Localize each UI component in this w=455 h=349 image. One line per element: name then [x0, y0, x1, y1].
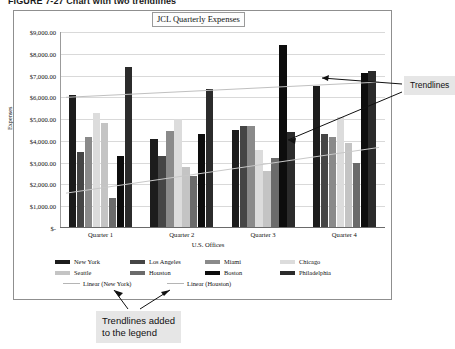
bar[interactable]	[109, 198, 116, 228]
legend-swatch-icon	[130, 260, 145, 264]
bar[interactable]	[190, 176, 197, 228]
plot-inner	[60, 32, 385, 228]
bar[interactable]	[279, 45, 286, 228]
y-tick-label: $7,000.00	[30, 72, 56, 79]
legend-item[interactable]: Houston	[130, 269, 205, 276]
legend-label: Houston	[149, 269, 171, 276]
y-tick-label: $1,000.00	[30, 203, 56, 210]
legend-item[interactable]: Linear (Houston)	[167, 280, 271, 287]
legend-line-icon	[167, 283, 184, 284]
callout-trendlines-legend: Trendlines added to the legend	[96, 311, 181, 343]
legend-swatch-icon	[205, 260, 220, 264]
plot-area	[60, 32, 385, 228]
bar[interactable]	[313, 86, 320, 228]
bar[interactable]	[206, 89, 213, 228]
bar-group	[313, 32, 376, 228]
legend-item[interactable]: Los Angeles	[130, 258, 205, 265]
legend-label: Los Angeles	[149, 258, 181, 265]
bar[interactable]	[345, 143, 352, 228]
legend-label: New York	[74, 258, 100, 265]
y-tick-label: $8,000.00	[30, 50, 56, 57]
x-tick-label: Quarter 4	[332, 231, 357, 238]
legend-label: Boston	[224, 269, 242, 276]
x-axis-line	[60, 227, 385, 228]
y-tick-label: $3,000.00	[30, 159, 56, 166]
bar[interactable]	[85, 137, 92, 228]
y-axis-tick-labels: $9,000.00$8,000.00$7,000.00$6,000.00$5,0…	[0, 32, 56, 228]
legend-label: Seattle	[74, 269, 91, 276]
legend-swatch-icon	[280, 271, 295, 275]
bar[interactable]	[337, 117, 344, 228]
bar-group	[232, 32, 295, 228]
legend-item[interactable]: New York	[55, 258, 130, 265]
legend-line-icon	[63, 283, 80, 284]
bar[interactable]	[93, 113, 100, 228]
bar[interactable]	[271, 158, 278, 228]
legend-label: Chicago	[299, 258, 320, 265]
y-tick-label: $2,000.00	[30, 181, 56, 188]
y-tick-label: $6,000.00	[30, 94, 56, 101]
legend-swatch-icon	[55, 260, 70, 264]
bar[interactable]	[263, 171, 270, 228]
x-axis-title: U.S. Offices	[192, 241, 225, 248]
legend-item[interactable]: Miami	[205, 258, 280, 265]
bar[interactable]	[321, 134, 328, 228]
bar[interactable]	[158, 156, 165, 228]
legend-item[interactable]: Linear (New York)	[63, 280, 167, 287]
bar[interactable]	[198, 134, 205, 228]
bar[interactable]	[117, 156, 124, 228]
y-tick-label: $9,000.00	[30, 29, 56, 36]
bar[interactable]	[101, 123, 108, 228]
bar[interactable]	[150, 139, 157, 228]
legend-swatch-icon	[130, 271, 145, 275]
y-axis-line	[60, 32, 61, 228]
legend-item[interactable]: Philadelphia	[280, 269, 355, 276]
callout-line-2: to the legend	[102, 327, 175, 339]
figure-caption: FIGURE 7-27 Chart with two trendlines	[8, 0, 176, 6]
x-tick-label: Quarter 1	[88, 231, 113, 238]
bar[interactable]	[329, 137, 336, 228]
bar[interactable]	[353, 163, 360, 228]
bar[interactable]	[174, 119, 181, 228]
bar[interactable]	[77, 152, 84, 228]
bar[interactable]	[255, 150, 262, 228]
legend-label: Miami	[224, 258, 241, 265]
legend-item[interactable]: Chicago	[280, 258, 355, 265]
y-tick-label: $5,000.00	[30, 116, 56, 123]
legend-swatch-icon	[55, 271, 70, 275]
bar-group	[69, 32, 132, 228]
bar[interactable]	[232, 130, 239, 228]
bar[interactable]	[125, 67, 132, 228]
bar[interactable]	[247, 126, 254, 228]
x-tick-label: Quarter 2	[169, 231, 194, 238]
callout-line-1: Trendlines added	[102, 315, 175, 327]
bar[interactable]	[166, 131, 173, 228]
bar[interactable]	[287, 132, 294, 228]
chart-legend: New YorkLos AngelesMiamiChicagoSeattleHo…	[55, 256, 355, 289]
bar-group	[150, 32, 213, 228]
x-tick-label: Quarter 3	[251, 231, 276, 238]
legend-item[interactable]: Seattle	[55, 269, 130, 276]
bar[interactable]	[69, 95, 76, 228]
legend-swatch-icon	[205, 271, 220, 275]
legend-row: New YorkLos AngelesMiamiChicago	[55, 256, 355, 267]
bar[interactable]	[368, 71, 375, 228]
legend-swatch-icon	[280, 260, 295, 264]
legend-label: Philadelphia	[299, 269, 331, 276]
legend-row: SeattleHoustonBostonPhiladelphia	[55, 267, 355, 278]
bar[interactable]	[240, 126, 247, 228]
y-tick-label: $4,000.00	[30, 137, 56, 144]
y-tick-label: $-	[51, 225, 57, 232]
bar[interactable]	[182, 167, 189, 228]
callout-trendlines: Trendlines	[404, 76, 455, 95]
chart-title: JCL Quarterly Expenses	[152, 12, 245, 27]
legend-item[interactable]: Boston	[205, 269, 280, 276]
bar[interactable]	[361, 73, 368, 228]
legend-row: Linear (New York)Linear (Houston)	[55, 278, 355, 289]
legend-label: Linear (New York)	[83, 280, 131, 287]
legend-label: Linear (Houston)	[187, 280, 231, 287]
